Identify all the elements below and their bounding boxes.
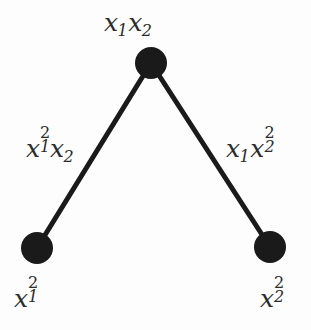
node-top [135, 47, 167, 79]
node-label-bottom-right: x22 [260, 282, 284, 311]
node-label-bottom-left: x21 [14, 282, 38, 311]
graph-diagram: x1x2 x21x2 x1x22 x21 x22 [0, 0, 311, 330]
node-label-top: x1x2 [104, 10, 153, 35]
node-bottom-left [21, 232, 53, 264]
graph-canvas [0, 0, 311, 330]
edge-label-left: x21x2 [26, 132, 74, 161]
node-bottom-right [254, 231, 286, 263]
edge-label-right: x1x22 [226, 132, 274, 161]
